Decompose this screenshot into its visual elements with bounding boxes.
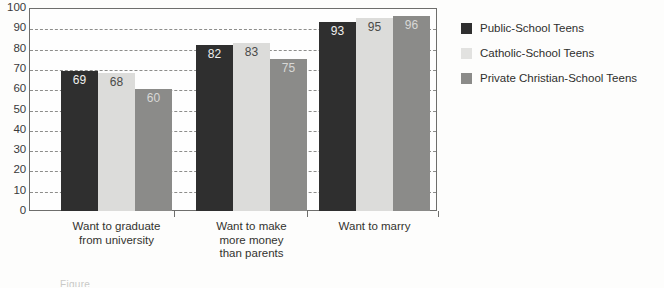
bar: 83 <box>233 43 270 211</box>
legend-swatch-icon <box>461 23 472 34</box>
x-category-label-line: Want to graduate <box>42 220 192 234</box>
bar-value-label: 75 <box>270 62 307 75</box>
legend-swatch-icon <box>461 73 472 84</box>
y-tick-label: 10 <box>0 185 26 196</box>
bar-value-label: 95 <box>356 21 393 34</box>
y-axis: 1009080706050403020100 <box>0 0 26 211</box>
bar-group: 696860 <box>61 8 172 211</box>
y-tick-label: 0 <box>0 205 26 216</box>
y-tick-label: 100 <box>0 2 26 13</box>
bar-chart-figure: 1009080706050403020100 69686082837593959… <box>0 0 664 288</box>
legend-item[interactable]: Private Christian-School Teens <box>461 72 661 86</box>
bar-value-label: 68 <box>98 76 135 89</box>
x-axis-ticks <box>29 211 438 218</box>
bar: 75 <box>270 59 307 211</box>
y-tick-label: 80 <box>0 43 26 54</box>
x-category-label: Want to graduatefrom university <box>42 220 192 247</box>
bar: 60 <box>135 89 172 211</box>
x-axis-labels: Want to graduatefrom universityWant to m… <box>29 220 438 270</box>
x-category-label-line: from university <box>42 234 192 248</box>
bar: 82 <box>196 45 233 211</box>
legend-label: Private Christian-School Teens <box>480 72 637 85</box>
y-tick-label: 50 <box>0 104 26 115</box>
bar-group: 939596 <box>319 8 430 211</box>
y-tick-label: 20 <box>0 164 26 175</box>
y-tick-label: 60 <box>0 83 26 94</box>
caption-sliver: Figure <box>60 279 90 287</box>
bar-group: 828375 <box>196 8 307 211</box>
legend: Public-School TeensCatholic-School Teens… <box>461 22 661 97</box>
bar-value-label: 96 <box>393 19 430 32</box>
bar-value-label: 69 <box>61 74 98 87</box>
legend-item[interactable]: Catholic-School Teens <box>461 47 661 61</box>
legend-label: Public-School Teens <box>480 22 584 35</box>
bar-value-label: 93 <box>319 25 356 38</box>
x-tick <box>438 211 439 217</box>
bar: 93 <box>319 22 356 211</box>
legend-label: Catholic-School Teens <box>480 47 594 60</box>
x-category-label-line: than parents <box>177 247 327 261</box>
y-tick-label: 40 <box>0 124 26 135</box>
bar-value-label: 83 <box>233 46 270 59</box>
bar: 68 <box>98 73 135 211</box>
y-tick-label: 30 <box>0 144 26 155</box>
bar: 69 <box>61 71 98 211</box>
legend-swatch-icon <box>461 48 472 59</box>
bar: 95 <box>356 18 393 211</box>
x-tick <box>307 211 308 217</box>
x-category-label-line: more money <box>177 234 327 248</box>
bar-value-label: 82 <box>196 48 233 61</box>
bar-value-label: 60 <box>135 92 172 105</box>
y-tick-label: 90 <box>0 22 26 33</box>
bars-layer: 696860828375939596 <box>29 8 437 211</box>
legend-item[interactable]: Public-School Teens <box>461 22 661 36</box>
x-category-label-line: Want to marry <box>300 220 450 234</box>
x-category-label: Want to marry <box>300 220 450 234</box>
bar: 96 <box>393 16 430 211</box>
x-tick <box>174 211 175 217</box>
y-tick-label: 70 <box>0 63 26 74</box>
